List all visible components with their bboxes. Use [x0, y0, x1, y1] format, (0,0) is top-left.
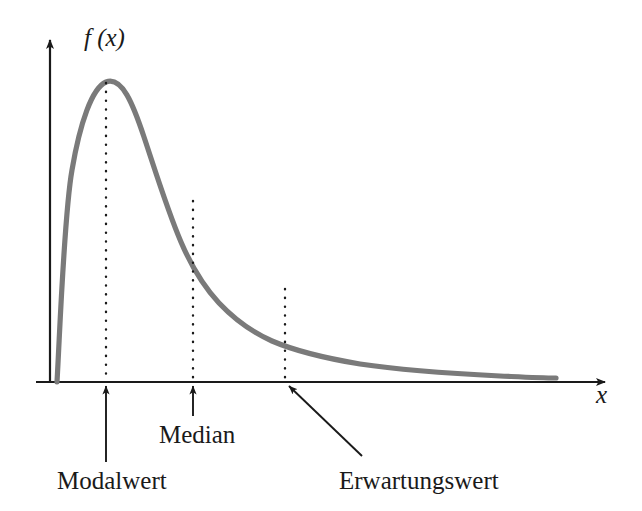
modalwert-label: Modalwert [57, 467, 167, 494]
y-axis-label: f (x) [84, 24, 125, 52]
median-label: Median [159, 421, 236, 448]
chart-svg: f (x) x Median Modalwert Erwartungswert [0, 0, 642, 511]
x-axis-label: x [595, 381, 607, 408]
erwartungswert-label: Erwartungswert [339, 467, 499, 494]
density-curve-group [57, 81, 556, 382]
density-curve [57, 81, 556, 382]
figure-canvas: f (x) x Median Modalwert Erwartungswert [0, 0, 642, 511]
erwartungswert-arrow [289, 386, 362, 456]
labels-group: f (x) x Median Modalwert Erwartungswert [57, 24, 607, 494]
axes-group [36, 40, 605, 383]
